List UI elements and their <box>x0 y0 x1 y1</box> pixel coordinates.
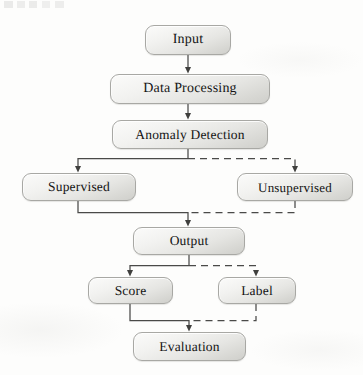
node-output-label: Output <box>170 234 209 248</box>
edge-supervised-to-output <box>78 201 188 223</box>
edge-output-to-score <box>130 266 189 274</box>
edge-anomaly-to-supervised <box>78 159 188 170</box>
edge-unsupervised-to-output <box>189 201 295 213</box>
node-input: Input <box>145 25 231 55</box>
node-anomaly-detection-label: Anomaly Detection <box>135 128 245 142</box>
node-data-processing-label: Data Processing <box>143 82 237 96</box>
node-input-label: Input <box>173 33 204 47</box>
node-label: Label <box>218 277 296 304</box>
edge-label-to-evaluation <box>190 304 256 321</box>
node-unsupervised: Unsupervised <box>237 173 353 201</box>
node-supervised: Supervised <box>22 173 136 201</box>
node-label-label: Label <box>241 284 273 298</box>
node-anomaly-detection: Anomaly Detection <box>112 120 268 149</box>
edge-score-to-evaluation <box>130 304 189 328</box>
node-output: Output <box>133 227 245 255</box>
node-data-processing: Data Processing <box>110 74 270 104</box>
node-score-label: Score <box>115 284 147 298</box>
node-score: Score <box>88 277 173 304</box>
node-supervised-label: Supervised <box>48 180 110 194</box>
node-unsupervised-label: Unsupervised <box>258 181 332 194</box>
edge-anomaly-to-unsupervised <box>188 159 295 170</box>
node-evaluation-label: Evaluation <box>159 340 219 354</box>
node-evaluation: Evaluation <box>133 332 246 361</box>
edge-output-to-label <box>189 266 256 274</box>
